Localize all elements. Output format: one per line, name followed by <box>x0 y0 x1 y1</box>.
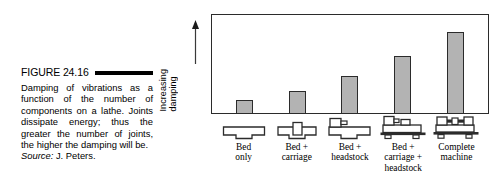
legend-label: Bed only <box>235 142 252 163</box>
figure-source-label: Source: <box>21 150 53 161</box>
figure-caption-header: FIGURE 24.16 <box>21 66 153 79</box>
bar-bed-carriage <box>289 91 306 113</box>
figure-source: Source: J. Peters. <box>21 150 153 161</box>
legend-item-complete-machine: Complete machine <box>430 114 483 173</box>
figure-rule <box>95 71 153 75</box>
figure-caption: FIGURE 24.16 Damping of vibrations as a … <box>21 66 153 162</box>
legend-item-bed-only: Bed only <box>217 114 270 173</box>
lathe-bed-icon <box>222 124 266 140</box>
y-axis: Increasing damping <box>158 20 204 112</box>
bar-bed-carriage-headstock <box>394 56 411 113</box>
bar-slot <box>218 15 271 113</box>
figure-source-value: J. Peters. <box>53 150 95 161</box>
bar-series <box>212 15 488 113</box>
bar-bed-only <box>236 100 253 113</box>
figure-caption-text: Damping of vibrations as a function of t… <box>21 82 153 150</box>
lathe-complete-machine-icon <box>432 114 480 140</box>
lathe-bed-headstock-icon <box>327 116 373 140</box>
category-legend: Bed only Bed + carriage Bed + headstock <box>211 114 489 173</box>
bar-bed-headstock <box>341 76 358 113</box>
increasing-arrow-icon <box>191 20 200 64</box>
bar-slot <box>271 15 324 113</box>
bar-slot <box>429 15 482 113</box>
legend-item-bed-headstock: Bed + headstock <box>323 114 376 173</box>
legend-label: Complete machine <box>438 142 474 163</box>
legend-item-bed-carriage: Bed + carriage <box>270 114 323 173</box>
bar-slot <box>324 15 377 113</box>
icon-container <box>327 114 373 140</box>
bar-slot <box>376 15 429 113</box>
chart-plot-area <box>211 14 489 114</box>
lathe-bed-carriage-headstock-icon <box>379 114 427 140</box>
icon-container <box>379 114 427 140</box>
legend-item-bed-carriage-headstock: Bed + carriage + headstock <box>377 114 430 173</box>
icon-container <box>432 114 480 140</box>
y-axis-label: Increasing damping <box>158 69 178 112</box>
icon-container <box>222 114 266 140</box>
legend-label: Bed + carriage + headstock <box>384 142 422 173</box>
legend-label: Bed + carriage <box>282 142 312 163</box>
bar-complete-machine <box>447 32 464 113</box>
figure-number: FIGURE 24.16 <box>21 66 89 79</box>
legend-label: Bed + headstock <box>331 142 369 163</box>
icon-container <box>275 114 319 140</box>
lathe-bed-carriage-icon <box>275 120 319 140</box>
